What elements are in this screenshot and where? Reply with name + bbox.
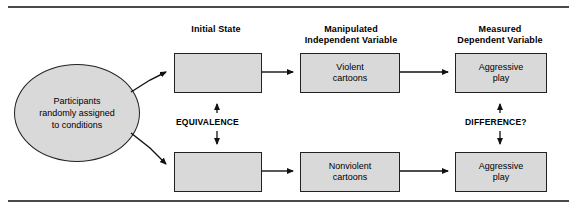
- column-header-manipulated-iv: Manipulated Independent Variable: [288, 24, 414, 46]
- node-initial-state-bottom: [174, 152, 262, 192]
- node-iv-top-line1: Violent: [333, 62, 368, 73]
- node-participants: Participants randomly assigned to condit…: [14, 64, 140, 162]
- node-dv-bottom: Aggressive play: [455, 152, 547, 192]
- node-iv-bottom: Nonviolent cartoons: [300, 152, 400, 192]
- node-iv-bottom-line2: cartoons: [329, 172, 372, 183]
- node-dv-top: Aggressive play: [455, 53, 547, 93]
- column-header-measured-dv-line1: Measured: [437, 24, 563, 35]
- column-header-manipulated-iv-line1: Manipulated: [288, 24, 414, 35]
- column-header-manipulated-iv-line2: Independent Variable: [288, 35, 414, 46]
- diagram-canvas: Initial State Manipulated Independent Va…: [0, 0, 577, 215]
- node-iv-top-line2: cartoons: [333, 73, 368, 84]
- arrow-participants-to-initial-bottom: [131, 133, 166, 164]
- annotation-equivalence: EQUIVALENCE: [176, 117, 239, 127]
- arrow-participants-to-initial-top: [131, 72, 166, 92]
- node-iv-bottom-line1: Nonviolent: [329, 161, 372, 172]
- node-participants-line1: Participants: [39, 95, 115, 107]
- node-dv-top-line2: play: [479, 73, 524, 84]
- annotation-difference: DIFFERENCE?: [465, 117, 527, 127]
- node-participants-line3: to conditions: [39, 119, 115, 131]
- column-header-measured-dv: Measured Dependent Variable: [437, 24, 563, 46]
- node-dv-bottom-line1: Aggressive: [479, 161, 524, 172]
- top-divider: [8, 6, 569, 8]
- node-iv-top: Violent cartoons: [300, 53, 400, 93]
- node-initial-state-top: [174, 53, 262, 93]
- node-dv-bottom-line2: play: [479, 172, 524, 183]
- column-header-measured-dv-line2: Dependent Variable: [437, 35, 563, 46]
- node-participants-line2: randomly assigned: [39, 107, 115, 119]
- bottom-divider: [8, 200, 569, 202]
- column-header-initial-state-label: Initial State: [191, 24, 240, 34]
- node-dv-top-line1: Aggressive: [479, 62, 524, 73]
- column-header-initial-state: Initial State: [170, 24, 262, 35]
